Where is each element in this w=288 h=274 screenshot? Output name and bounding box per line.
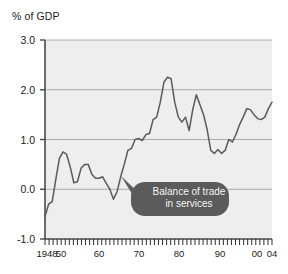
x-tick-label-50: 50: [52, 248, 70, 259]
y-tick-label-3: 3.0: [5, 34, 35, 46]
x-tick-label-80: 80: [170, 248, 188, 259]
line-chart-canvas: [0, 0, 288, 274]
chart-axis-title: % of GDP: [12, 10, 59, 22]
x-tick-label-60: 60: [90, 248, 108, 259]
x-tick-label-90: 90: [211, 248, 229, 259]
y-tick-label-1: 1.0: [5, 134, 35, 146]
y-tick-label-2: 2.0: [5, 84, 35, 96]
chart-figure: % of GDP: [0, 0, 288, 274]
annotation-callout-label: Balance of trade in services: [139, 186, 239, 209]
x-tick-label-70: 70: [130, 248, 148, 259]
x-axis-minor-ticks: [45, 239, 272, 245]
y-tick-label-neg1: -1.0: [5, 233, 35, 245]
x-tick-label-04: 04: [263, 248, 281, 259]
y-tick-label-0: 0.0: [5, 183, 35, 195]
